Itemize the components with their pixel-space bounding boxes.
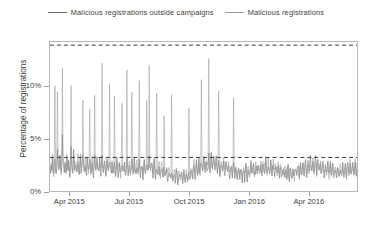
y-axis-title: Percentage of registrations (19, 34, 28, 184)
x-tick-mark (309, 192, 310, 196)
x-tick-label: Apr 2016 (279, 197, 339, 206)
legend-entry-outside-campaigns: Malicious registrations outside campaign… (48, 8, 214, 17)
y-tick-label: 10% (11, 81, 41, 90)
legend-swatch-outside-campaigns (48, 12, 67, 13)
legend-label-malicious-registrations: Malicious registrations (248, 8, 325, 17)
x-tick-label: Jan 2016 (219, 197, 279, 206)
y-tick-label: 0% (11, 187, 41, 196)
x-tick-label: Apr 2015 (39, 197, 99, 206)
plot-svg (50, 42, 357, 191)
y-tick-label: 5% (11, 134, 41, 143)
x-tick-mark (69, 192, 70, 196)
legend-swatch-malicious-registrations (225, 12, 244, 13)
x-tick-mark (249, 192, 250, 196)
x-tick-label: Oct 2015 (159, 197, 219, 206)
legend-entry-malicious-registrations: Malicious registrations (225, 8, 325, 17)
x-tick-label: Jul 2015 (99, 197, 159, 206)
legend-label-outside-campaigns: Malicious registrations outside campaign… (71, 8, 214, 17)
chart-legend: Malicious registrations outside campaign… (0, 8, 372, 17)
x-tick-mark (189, 192, 190, 196)
x-tick-mark (129, 192, 130, 196)
figure: Malicious registrations outside campaign… (0, 0, 372, 232)
y-tick-mark (44, 192, 49, 193)
plot-area (49, 41, 358, 192)
